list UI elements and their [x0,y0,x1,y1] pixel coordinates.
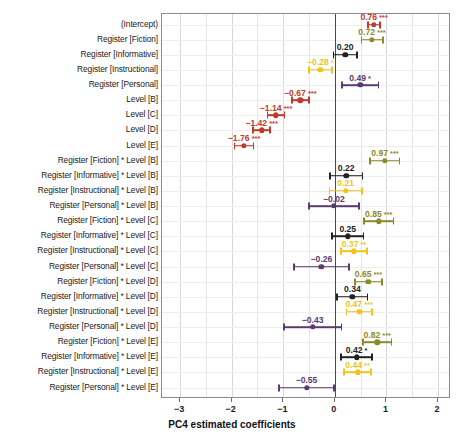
confidence-interval-cap [329,172,331,179]
x-axis-tick-label: −2 [226,404,236,414]
gridline-row [162,312,449,313]
significance-stars: *** [375,28,386,37]
confidence-interval-cap [331,66,333,73]
gridline-row [162,206,449,207]
x-axis-title: PC4 estimated coefficients [0,419,464,430]
confidence-interval-cap [308,66,310,73]
x-axis-tick-label: 2 [435,404,440,414]
plot-panel: 0.76 ***0.72 ***0.20−0.28 *0.49 *−0.67 *… [161,13,450,398]
significance-stars: *** [250,134,261,143]
confidence-interval-cap [362,172,364,179]
gridline-row [162,55,449,56]
y-axis-tick-label: Register [Informative] * Level [B] [0,170,158,180]
y-axis-tick-label: Register [Informative] * Level [E] [0,351,158,361]
confidence-interval-cap [341,82,343,89]
estimate-value-label: 0.65 *** [355,269,382,279]
confidence-interval-cap [363,218,365,225]
gridline-row [162,115,449,116]
estimate-point [369,37,374,42]
estimate-value-label: −1.42 *** [245,118,277,128]
y-axis-tick-label: Register [Instructional] * Level [E] [0,366,158,376]
y-axis-tick-label: Register [Informative] [0,49,158,59]
estimate-value-label: 0.34 [344,284,361,294]
y-axis-tick-label: Level [C] [0,109,158,119]
estimate-value-label: 0.25 [339,224,356,234]
confidence-interval-cap [371,308,373,315]
gridline-row [162,146,449,147]
significance-stars: ** [358,240,366,249]
y-axis-tick-label: Register [Instructional] [0,64,158,74]
confidence-interval-cap [284,112,286,119]
gridline-row [162,25,449,26]
significance-stars: *** [306,89,317,98]
y-axis-tick-label: Register [Informative] * Level [D] [0,291,158,301]
y-axis-tick-label: Register [Personal] [0,79,158,89]
estimate-point [351,249,356,254]
estimate-value-label: 0.37 ** [342,239,367,249]
gridline-row [162,70,449,71]
x-axis-tick [385,398,386,402]
significance-stars: * [329,58,334,67]
estimate-point [318,67,323,72]
confidence-interval-cap [283,324,285,331]
gridline-row [162,161,449,162]
estimate-value-label: 0.21 [337,178,354,188]
gridline-row [162,282,449,283]
confidence-interval-cap [370,369,372,376]
y-axis-tick-label: Level [B] [0,94,158,104]
significance-stars: *** [380,331,391,340]
estimate-value-label: −1.14 *** [260,103,292,113]
estimate-value-label: −0.26 [311,254,333,264]
y-axis-tick-label: Register [Fiction] * Level [D] [0,276,158,286]
estimate-point [343,52,348,57]
x-axis-tick [437,398,438,402]
confidence-interval-cap [382,36,384,43]
confidence-interval-cap [293,263,295,270]
estimate-point [357,82,362,87]
significance-stars: *** [377,13,388,22]
confidence-interval-cap [356,51,358,58]
coefficient-plot: 0.76 ***0.72 ***0.20−0.28 *0.49 *−0.67 *… [0,0,464,439]
estimate-value-label: 0.44 ** [345,360,370,370]
gridline-row [162,357,449,358]
estimate-value-label: 0.20 [337,42,354,52]
estimate-point [374,339,379,344]
confidence-interval-cap [336,293,338,300]
estimate-point [298,97,303,102]
confidence-interval-cap [269,127,271,134]
confidence-interval-cap [331,233,333,240]
y-axis-tick-label: Register [Fiction] * Level [E] [0,336,158,346]
estimate-point [310,324,315,329]
estimate-point [376,218,381,223]
estimate-value-label: 0.97 *** [371,148,398,158]
significance-stars: * [366,74,371,83]
confidence-interval-cap [378,82,380,89]
y-axis-tick-label: Register [Personal] * Level [B] [0,200,158,210]
x-axis-tick-label: 0 [331,404,336,414]
x-axis-tick [231,398,232,402]
estimate-value-label: −1.76 *** [228,133,260,143]
gridline-row [162,221,449,222]
significance-stars: *** [267,119,278,128]
y-axis-tick-label: Register [Fiction] * Level [C] [0,215,158,225]
confidence-interval-cap [393,218,395,225]
gridline-row [162,40,449,41]
x-axis-tick [282,398,283,402]
significance-stars: *** [282,104,293,113]
confidence-interval-cap [371,354,373,361]
confidence-interval-cap [361,187,363,194]
estimate-value-label: −0.67 *** [284,88,316,98]
gridline-row [162,342,449,343]
estimate-point [355,370,360,375]
confidence-interval-cap [333,384,335,391]
y-axis-tick-label: Register [Personal] * Level [C] [0,261,158,271]
confidence-interval-cap [341,324,343,331]
estimate-value-label: 0.22 [338,163,355,173]
confidence-interval-cap [358,203,360,210]
confidence-interval-cap [278,384,280,391]
estimate-value-label: −0.43 [302,315,324,325]
confidence-interval-cap [369,157,371,164]
gridline-row [162,297,449,298]
estimate-value-label: 0.82 *** [363,330,390,340]
gridline-row [162,130,449,131]
